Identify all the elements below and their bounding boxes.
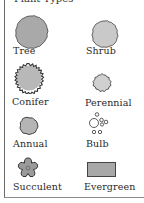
legend-label-tree: Tree [13, 45, 36, 56]
legend-label-evergreen: Evergreen [84, 181, 135, 192]
perennial-icon [91, 72, 113, 94]
legend-label-annual: Annual [13, 138, 48, 149]
legend-label-bulb: Bulb [86, 138, 109, 149]
legend-label-succulent: Succulent [13, 181, 62, 192]
bulb-icon [87, 112, 111, 136]
evergreen-icon [87, 162, 116, 177]
legend-label-perennial: Perennial [85, 97, 132, 108]
legend-label-conifer: Conifer [12, 96, 49, 107]
legend-title: Plant Types [14, 0, 73, 4]
legend-label-shrub: Shrub [86, 45, 116, 56]
annual-icon [18, 116, 40, 136]
succulent-icon [17, 157, 39, 179]
conifer-icon [13, 62, 45, 94]
